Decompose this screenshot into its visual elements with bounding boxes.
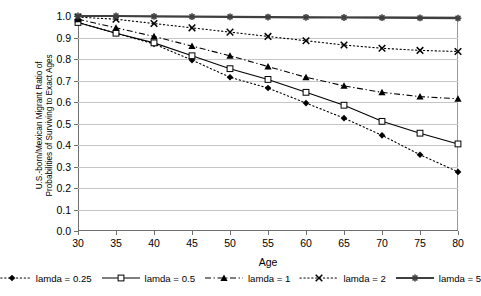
data-point-marker-open-square <box>379 118 385 124</box>
y-tick-label: 0.4 <box>45 139 71 151</box>
x-tick-label: 40 <box>148 237 160 249</box>
data-point-marker-filled-triangle <box>112 24 119 31</box>
legend-label: lamda = 1 <box>248 273 290 284</box>
y-tick-label: 0.5 <box>45 118 71 130</box>
legend-marker-open-square <box>101 272 141 284</box>
x-tick-mark <box>344 231 345 235</box>
legend-label: lamda = 5 <box>439 273 481 284</box>
data-point-marker-cross-x <box>227 29 234 36</box>
data-point-marker-star <box>417 15 424 22</box>
series-line <box>78 22 458 143</box>
data-point-marker-open-square <box>151 40 157 46</box>
x-tick-label: 60 <box>300 237 312 249</box>
data-point-marker-filled-diamond <box>455 169 462 176</box>
x-tick-label: 50 <box>224 237 236 249</box>
legend-entry: lamda = 2 <box>299 272 385 284</box>
legend-marker-filled-diamond <box>0 272 32 284</box>
legend-entry: lamda = 1 <box>204 272 290 284</box>
data-point-marker-filled-diamond <box>417 151 424 158</box>
legend-label: lamda = 2 <box>343 273 385 284</box>
series-line <box>78 17 458 51</box>
x-tick-label: 45 <box>186 237 198 249</box>
series-1 <box>75 20 461 147</box>
data-point-marker-filled-triangle <box>454 95 461 102</box>
series-layer <box>78 16 458 231</box>
y-tick-label: 0.7 <box>45 75 71 87</box>
x-tick-label: 55 <box>262 237 274 249</box>
data-point-marker-open-square <box>113 30 119 36</box>
data-point-marker-filled-diamond <box>303 100 310 107</box>
x-tick-label: 35 <box>110 237 122 249</box>
x-tick-mark <box>154 231 155 235</box>
data-point-marker-star <box>411 275 418 282</box>
data-point-marker-star <box>189 13 196 20</box>
data-point-marker-filled-triangle <box>302 74 309 81</box>
y-tick-label: 0.8 <box>45 53 71 65</box>
data-point-marker-open-square <box>227 66 233 72</box>
data-point-marker-open-square <box>417 130 423 136</box>
series-line <box>78 22 458 171</box>
series-0 <box>75 19 462 175</box>
data-point-marker-open-square <box>455 141 461 147</box>
y-tick-label: 0.0 <box>45 225 71 237</box>
x-tick-mark <box>230 231 231 235</box>
data-point-marker-star <box>227 13 234 20</box>
legend-marker-cross-x <box>299 272 339 284</box>
data-point-marker-star <box>113 13 120 20</box>
legend-entry: lamda = 5 <box>395 272 481 284</box>
data-point-marker-filled-diamond <box>265 85 272 92</box>
x-axis-title: Age <box>78 256 458 268</box>
data-point-marker-star <box>265 14 272 21</box>
legend-label: lamda = 0.5 <box>145 273 195 284</box>
y-tick-label: 0.3 <box>45 161 71 173</box>
x-tick-mark <box>78 231 79 235</box>
x-tick-mark <box>458 231 459 235</box>
data-point-marker-star <box>151 13 158 20</box>
x-tick-mark <box>420 231 421 235</box>
x-tick-mark <box>116 231 117 235</box>
legend-marker-star <box>395 272 435 284</box>
data-point-marker-open-square <box>118 275 124 281</box>
legend-entry: lamda = 0.25 <box>0 272 92 284</box>
data-point-marker-star <box>455 15 462 22</box>
chart-legend: lamda = 0.25lamda = 0.5lamda = 1lamda = … <box>0 272 473 284</box>
x-tick-mark <box>306 231 307 235</box>
data-point-marker-star <box>303 14 310 21</box>
data-point-marker-filled-diamond <box>227 74 234 81</box>
x-tick-label: 80 <box>452 237 464 249</box>
data-point-marker-star <box>379 14 386 21</box>
data-point-marker-filled-diamond <box>341 115 348 122</box>
legend-marker-filled-triangle <box>204 272 244 284</box>
data-point-marker-open-square <box>303 89 309 95</box>
series-4 <box>75 13 462 22</box>
y-tick-label: 1.0 <box>45 10 71 22</box>
data-point-marker-filled-diamond <box>379 132 386 139</box>
plot-area: 0.00.10.20.30.40.50.60.70.80.91.0 303540… <box>78 16 458 231</box>
x-tick-label: 65 <box>338 237 350 249</box>
y-tick-label: 0.6 <box>45 96 71 108</box>
y-tick-label: 0.2 <box>45 182 71 194</box>
x-tick-mark <box>382 231 383 235</box>
y-tick-label: 0.1 <box>45 204 71 216</box>
x-tick-label: 70 <box>376 237 388 249</box>
data-point-marker-open-square <box>341 102 347 108</box>
data-point-marker-star <box>341 14 348 21</box>
data-point-marker-open-square <box>189 53 195 59</box>
data-point-marker-filled-triangle <box>378 89 385 96</box>
x-tick-label: 30 <box>72 237 84 249</box>
data-point-marker-filled-diamond <box>9 275 16 282</box>
legend-entry: lamda = 0.5 <box>101 272 195 284</box>
y-axis-title-line1: U.S.-born/Mexican Migrant Ratio of <box>35 18 45 233</box>
data-point-marker-star <box>75 13 82 20</box>
x-tick-mark <box>192 231 193 235</box>
x-tick-mark <box>268 231 269 235</box>
x-tick-label: 75 <box>414 237 426 249</box>
data-point-marker-cross-x <box>417 47 424 54</box>
data-point-marker-open-square <box>265 77 271 83</box>
legend-label: lamda = 0.25 <box>36 273 92 284</box>
y-tick-label: 0.9 <box>45 32 71 44</box>
